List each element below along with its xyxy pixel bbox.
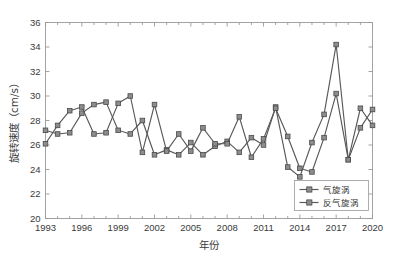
data-point-marker xyxy=(334,91,339,96)
data-point-marker xyxy=(128,132,133,137)
data-point-marker xyxy=(310,170,315,175)
data-point-marker xyxy=(249,155,254,160)
legend-marker-sample xyxy=(307,187,312,192)
data-point-marker xyxy=(92,102,97,107)
x-tick-label: 1993 xyxy=(35,222,56,233)
data-point-marker xyxy=(310,140,315,145)
data-point-marker xyxy=(237,150,242,155)
data-point-marker xyxy=(322,135,327,140)
data-point-marker xyxy=(285,134,290,139)
data-point-marker xyxy=(140,150,145,155)
data-point-marker xyxy=(176,153,181,158)
data-point-marker xyxy=(201,153,206,158)
x-axis-title: 年份 xyxy=(199,239,220,251)
data-point-marker xyxy=(116,101,121,106)
legend-item-label: 反气旋涡 xyxy=(323,198,359,208)
data-point-marker xyxy=(322,112,327,117)
rotation-speed-line-chart: 202224262830323436 199319961999200220052… xyxy=(0,0,393,259)
data-point-marker xyxy=(55,123,60,128)
data-point-marker xyxy=(92,132,97,137)
data-point-marker xyxy=(164,149,169,154)
y-tick-label: 22 xyxy=(30,188,41,199)
data-point-marker xyxy=(370,123,375,128)
data-point-marker xyxy=(346,157,351,162)
data-point-marker xyxy=(104,130,109,135)
data-point-marker xyxy=(43,141,48,146)
data-point-marker xyxy=(334,42,339,47)
x-tick-label: 1996 xyxy=(71,222,92,233)
x-tick-label: 2017 xyxy=(326,222,347,233)
figure-background xyxy=(0,0,393,259)
data-point-marker xyxy=(152,153,157,158)
data-point-marker xyxy=(140,118,145,123)
x-tick-label: 2002 xyxy=(144,222,165,233)
y-tick-label: 24 xyxy=(30,164,41,175)
data-point-marker xyxy=(201,126,206,131)
x-tick-label: 2005 xyxy=(180,222,201,233)
data-point-marker xyxy=(128,94,133,99)
legend-item-label: 气旋涡 xyxy=(323,185,350,195)
data-point-marker xyxy=(43,128,48,133)
data-point-marker xyxy=(358,126,363,131)
data-point-marker xyxy=(249,135,254,140)
data-point-marker xyxy=(358,106,363,111)
data-point-marker xyxy=(152,102,157,107)
data-point-marker xyxy=(370,107,375,112)
data-point-marker xyxy=(176,132,181,137)
data-point-marker xyxy=(298,175,303,180)
data-point-marker xyxy=(189,140,194,145)
y-tick-label: 32 xyxy=(30,66,41,77)
data-point-marker xyxy=(67,108,72,113)
y-tick-label: 30 xyxy=(30,90,41,101)
x-tick-label: 2014 xyxy=(289,222,310,233)
x-tick-label: 1999 xyxy=(108,222,129,233)
legend-marker-sample xyxy=(307,200,312,205)
y-tick-label: 28 xyxy=(30,115,41,126)
data-point-marker xyxy=(67,130,72,135)
y-tick-label: 36 xyxy=(30,17,41,28)
data-point-marker xyxy=(261,137,266,142)
data-point-marker xyxy=(116,128,121,133)
data-point-marker xyxy=(273,106,278,111)
data-point-marker xyxy=(225,141,230,146)
data-point-marker xyxy=(213,141,218,146)
data-point-marker xyxy=(237,115,242,120)
y-axis-title: 旋转速度（cm/s） xyxy=(8,78,20,163)
chart-legend: 气旋涡反气旋涡 xyxy=(295,181,369,211)
data-point-marker xyxy=(298,166,303,171)
data-point-marker xyxy=(189,149,194,154)
data-point-marker xyxy=(285,165,290,170)
data-point-marker xyxy=(55,132,60,137)
x-tick-label: 2008 xyxy=(217,222,238,233)
y-tick-label: 26 xyxy=(30,139,41,150)
x-tick-label: 2011 xyxy=(253,222,273,233)
x-tick-label: 2020 xyxy=(362,222,383,233)
data-point-marker xyxy=(104,100,109,105)
y-tick-label: 34 xyxy=(30,41,41,52)
data-point-marker xyxy=(80,105,85,110)
data-point-marker xyxy=(261,143,266,148)
chart-figure: 202224262830323436 199319961999200220052… xyxy=(0,0,393,259)
